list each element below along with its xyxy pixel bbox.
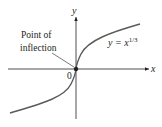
annotation-leader-line: [52, 53, 74, 67]
equation-label: y = x1/3: [107, 36, 138, 48]
annotation-line-1: Point of: [21, 30, 52, 40]
equation-base: y = x: [107, 37, 129, 48]
annotation-line-2: inflection: [20, 43, 57, 53]
inflection-point: [74, 67, 78, 71]
equation-exponent: 1/3: [129, 36, 138, 44]
origin-label: 0: [67, 71, 72, 81]
x-axis-label: x: [150, 63, 156, 74]
graph: y x 0 Point of inflection y = x1/3: [0, 0, 162, 127]
y-axis-label: y: [71, 5, 77, 16]
